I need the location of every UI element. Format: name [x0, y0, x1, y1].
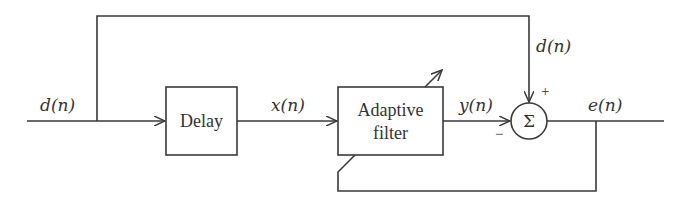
plus-sign: + — [541, 83, 549, 99]
error-label-e-n: e(n) — [588, 95, 622, 115]
adaptive-filter-block — [338, 87, 443, 155]
adaptive-filter-block-diagram: d(n) d(n) Delay x(n) Adaptive filter y(n… — [0, 0, 685, 204]
adaptation-arrow-icon — [425, 70, 442, 87]
sigma-symbol: Σ — [523, 111, 535, 131]
adaptive-filter-label-line1: Adaptive — [358, 100, 424, 120]
input-label-d-n: d(n) — [40, 95, 75, 115]
adaptive-filter-label-line2: filter — [373, 123, 408, 143]
desired-branch-label-d-n: d(n) — [536, 36, 571, 56]
delayed-input-label-x-n: x(n) — [271, 95, 305, 115]
filter-output-label-y-n: y(n) — [458, 95, 493, 115]
minus-sign: − — [495, 126, 503, 142]
delay-label: Delay — [180, 111, 223, 131]
